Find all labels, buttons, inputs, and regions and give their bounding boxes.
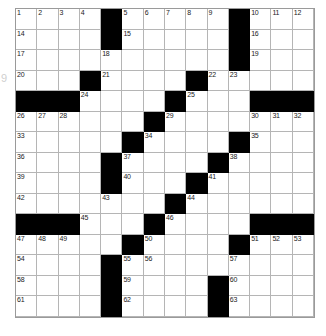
- crossword-open-cell[interactable]: [122, 194, 143, 215]
- crossword-open-cell[interactable]: 9: [208, 9, 229, 30]
- crossword-open-cell[interactable]: 43: [101, 194, 122, 215]
- crossword-open-cell[interactable]: [101, 91, 122, 112]
- crossword-open-cell[interactable]: 31: [271, 112, 292, 133]
- crossword-open-cell[interactable]: 61: [16, 296, 37, 317]
- crossword-open-cell[interactable]: [165, 50, 186, 71]
- crossword-open-cell[interactable]: [293, 71, 314, 92]
- crossword-open-cell[interactable]: [165, 30, 186, 51]
- crossword-open-cell[interactable]: [80, 50, 101, 71]
- crossword-open-cell[interactable]: 5: [122, 9, 143, 30]
- crossword-open-cell[interactable]: 53: [293, 235, 314, 256]
- crossword-open-cell[interactable]: 52: [271, 235, 292, 256]
- crossword-open-cell[interactable]: [293, 30, 314, 51]
- crossword-open-cell[interactable]: [59, 255, 80, 276]
- crossword-open-cell[interactable]: 19: [250, 50, 271, 71]
- crossword-open-cell[interactable]: [271, 296, 292, 317]
- crossword-open-cell[interactable]: [293, 296, 314, 317]
- crossword-open-cell[interactable]: 30: [250, 112, 271, 133]
- crossword-open-cell[interactable]: [293, 153, 314, 174]
- crossword-open-cell[interactable]: [37, 255, 58, 276]
- crossword-open-cell[interactable]: [80, 132, 101, 153]
- crossword-open-cell[interactable]: 60: [229, 276, 250, 297]
- crossword-open-cell[interactable]: 47: [16, 235, 37, 256]
- crossword-open-cell[interactable]: [293, 194, 314, 215]
- crossword-open-cell[interactable]: [122, 91, 143, 112]
- crossword-open-cell[interactable]: 35: [250, 132, 271, 153]
- crossword-open-cell[interactable]: [37, 276, 58, 297]
- crossword-open-cell[interactable]: 8: [186, 9, 207, 30]
- crossword-open-cell[interactable]: [80, 30, 101, 51]
- crossword-open-cell[interactable]: 20: [16, 71, 37, 92]
- crossword-open-cell[interactable]: [208, 30, 229, 51]
- crossword-open-cell[interactable]: 2: [37, 9, 58, 30]
- crossword-open-cell[interactable]: [80, 235, 101, 256]
- crossword-open-cell[interactable]: [186, 296, 207, 317]
- crossword-open-cell[interactable]: 62: [122, 296, 143, 317]
- crossword-open-cell[interactable]: 15: [122, 30, 143, 51]
- crossword-open-cell[interactable]: 1: [16, 9, 37, 30]
- crossword-open-cell[interactable]: [144, 71, 165, 92]
- crossword-open-cell[interactable]: [165, 71, 186, 92]
- crossword-open-cell[interactable]: [59, 71, 80, 92]
- crossword-open-cell[interactable]: 14: [16, 30, 37, 51]
- crossword-open-cell[interactable]: [165, 255, 186, 276]
- crossword-open-cell[interactable]: 16: [250, 30, 271, 51]
- crossword-open-cell[interactable]: 54: [16, 255, 37, 276]
- crossword-open-cell[interactable]: 44: [186, 194, 207, 215]
- crossword-open-cell[interactable]: [186, 276, 207, 297]
- crossword-open-cell[interactable]: [37, 132, 58, 153]
- crossword-open-cell[interactable]: [37, 71, 58, 92]
- crossword-open-cell[interactable]: [122, 50, 143, 71]
- crossword-open-cell[interactable]: 23: [229, 71, 250, 92]
- crossword-open-cell[interactable]: [80, 296, 101, 317]
- crossword-open-cell[interactable]: 38: [229, 153, 250, 174]
- crossword-open-cell[interactable]: 7: [165, 9, 186, 30]
- crossword-open-cell[interactable]: 6: [144, 9, 165, 30]
- crossword-open-cell[interactable]: [165, 235, 186, 256]
- crossword-open-cell[interactable]: [186, 214, 207, 235]
- crossword-open-cell[interactable]: [80, 194, 101, 215]
- crossword-open-cell[interactable]: [80, 153, 101, 174]
- crossword-open-cell[interactable]: [122, 112, 143, 133]
- crossword-open-cell[interactable]: 18: [101, 50, 122, 71]
- crossword-open-cell[interactable]: 26: [16, 112, 37, 133]
- crossword-grid[interactable]: 1234567891011121415161718192021222324252…: [15, 8, 315, 318]
- crossword-open-cell[interactable]: [271, 132, 292, 153]
- crossword-open-cell[interactable]: 17: [16, 50, 37, 71]
- crossword-open-cell[interactable]: [165, 173, 186, 194]
- crossword-open-cell[interactable]: [271, 50, 292, 71]
- crossword-open-cell[interactable]: [229, 112, 250, 133]
- crossword-open-cell[interactable]: [101, 112, 122, 133]
- crossword-open-cell[interactable]: 55: [122, 255, 143, 276]
- crossword-open-cell[interactable]: [229, 194, 250, 215]
- crossword-open-cell[interactable]: [122, 71, 143, 92]
- crossword-open-cell[interactable]: 45: [80, 214, 101, 235]
- crossword-open-cell[interactable]: [229, 214, 250, 235]
- crossword-open-cell[interactable]: [293, 132, 314, 153]
- crossword-open-cell[interactable]: [144, 296, 165, 317]
- crossword-open-cell[interactable]: 10: [250, 9, 271, 30]
- crossword-open-cell[interactable]: 24: [80, 91, 101, 112]
- crossword-open-cell[interactable]: [293, 255, 314, 276]
- crossword-open-cell[interactable]: [144, 91, 165, 112]
- crossword-open-cell[interactable]: [144, 276, 165, 297]
- crossword-open-cell[interactable]: [250, 153, 271, 174]
- crossword-open-cell[interactable]: [271, 255, 292, 276]
- crossword-open-cell[interactable]: 51: [250, 235, 271, 256]
- crossword-open-cell[interactable]: [37, 50, 58, 71]
- crossword-open-cell[interactable]: 33: [16, 132, 37, 153]
- crossword-open-cell[interactable]: [208, 194, 229, 215]
- crossword-open-cell[interactable]: [37, 173, 58, 194]
- crossword-open-cell[interactable]: [186, 132, 207, 153]
- crossword-open-cell[interactable]: [229, 91, 250, 112]
- crossword-open-cell[interactable]: [59, 50, 80, 71]
- crossword-open-cell[interactable]: [144, 173, 165, 194]
- crossword-open-cell[interactable]: 48: [37, 235, 58, 256]
- crossword-open-cell[interactable]: [59, 30, 80, 51]
- crossword-open-cell[interactable]: [250, 194, 271, 215]
- crossword-open-cell[interactable]: [37, 153, 58, 174]
- crossword-open-cell[interactable]: [271, 30, 292, 51]
- crossword-open-cell[interactable]: [37, 194, 58, 215]
- crossword-open-cell[interactable]: 27: [37, 112, 58, 133]
- crossword-open-cell[interactable]: [250, 276, 271, 297]
